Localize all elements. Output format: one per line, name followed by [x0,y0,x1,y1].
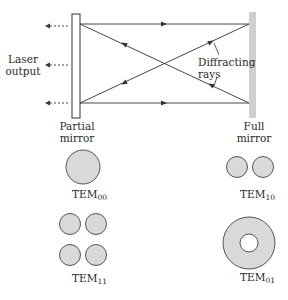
tem11-spot-bl [60,245,81,266]
partial-mirror-label: Partial mirror [55,120,99,144]
mode-patterns [60,150,276,269]
tem11-spot-tr [86,214,107,235]
tem11-label: TEM11 [72,272,107,288]
tem11-spot-br [86,245,107,266]
tem10-label: TEM10 [240,188,275,204]
tem00-spot [66,150,100,184]
partial-mirror [72,14,80,118]
tem11-spot-tl [60,214,81,235]
tem01-label: TEM01 [240,271,275,287]
laser-output-arrows [48,26,68,103]
diffracting-rays-label: Diffracting rays [198,56,260,80]
laser-cavity-diagram [0,0,288,300]
tem01-hole [240,234,258,252]
tem10-spot-left [227,157,248,178]
tem10-spot-right [253,157,274,178]
tem00-label: TEM00 [72,188,107,204]
full-mirror-label: Full mirror [232,120,276,144]
output-arrowheads [45,24,50,106]
laser-output-label: Laser output [2,53,44,77]
